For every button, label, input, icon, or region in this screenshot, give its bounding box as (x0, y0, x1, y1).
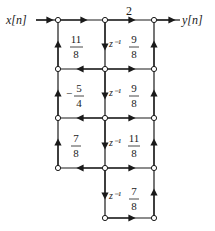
gain-top: 2 (126, 4, 132, 18)
node (151, 215, 156, 220)
gain-row1-right-den: 8 (131, 48, 137, 60)
nodes (55, 17, 156, 220)
node (55, 17, 60, 22)
node (102, 215, 107, 220)
node (102, 17, 107, 22)
node (151, 17, 156, 22)
delay-3: z⁻¹ (108, 137, 121, 148)
node (151, 165, 156, 170)
gain-row3-right-den: 8 (131, 147, 137, 159)
gain-row4-right-num: 7 (131, 185, 137, 197)
gain-row1-right-num: 9 (131, 33, 137, 45)
delay-2: z⁻¹ (108, 87, 121, 98)
node (102, 115, 107, 120)
gain-row2-left-num: 5 (76, 82, 82, 94)
node (151, 66, 156, 71)
gain-row3-right-num: 11 (129, 132, 140, 144)
node (102, 66, 107, 71)
gain-row2-left-den: 4 (76, 97, 82, 109)
node (55, 115, 60, 120)
node (102, 165, 107, 170)
signal-flow-graph: x[n] y[n] 2 11 8 z⁻¹ 9 8 − 5 4 z⁻¹ 9 8 7… (0, 0, 215, 231)
output-label: y[n] (181, 13, 203, 27)
gain-row2-left-sign: − (66, 87, 72, 99)
node (55, 165, 60, 170)
gain-row3-left-num: 7 (73, 132, 79, 144)
gain-row2-right-den: 8 (131, 97, 137, 109)
gain-row1-left-den: 8 (73, 48, 79, 60)
node (151, 115, 156, 120)
node (55, 66, 60, 71)
gain-row3-left-den: 8 (73, 147, 79, 159)
gain-row2-right-num: 9 (131, 82, 137, 94)
gain-row4-right-den: 8 (131, 200, 137, 212)
input-label: x[n] (5, 13, 27, 27)
delay-4: z⁻¹ (108, 190, 121, 201)
gain-row1-left-num: 11 (71, 33, 82, 45)
delay-1: z⁻¹ (108, 38, 121, 49)
